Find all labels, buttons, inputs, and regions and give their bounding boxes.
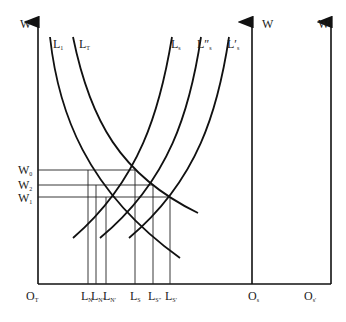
left-axis-label: W [20, 17, 32, 31]
right-axis-label: W [318, 17, 330, 31]
label-lt: LT [79, 37, 90, 51]
origin-left: OT [26, 289, 39, 303]
demand-curves [50, 37, 198, 258]
axes [38, 22, 331, 284]
supply-curve-ls1 [129, 37, 229, 238]
supply-curve-ls2 [100, 37, 201, 238]
label-l1: L1 [53, 37, 63, 51]
label-w2: W2 [18, 178, 32, 192]
axis-labels: W W W OT Os Os' [20, 17, 330, 303]
middle-axis-label: W [262, 17, 274, 31]
origin-middle: Os [248, 289, 260, 303]
label-ls2-q: LS″ [148, 289, 162, 303]
label-ls: Ls [171, 37, 181, 51]
label-ln1: LN′ [103, 289, 117, 303]
label-ls1-q: LS′ [165, 289, 178, 303]
label-ls2: L″s [197, 37, 212, 51]
labor-market-diagram: W W W OT Os Os' L1 LT Ls L″s L′s W0 W2 W… [0, 0, 346, 322]
label-w1: W1 [18, 191, 32, 205]
origin-right: Os' [304, 289, 316, 303]
label-ls-q: LS [130, 289, 141, 303]
quantity-guides [88, 170, 170, 284]
quantity-labels: LN LN″ LN′ LS LS″ LS′ [81, 289, 178, 303]
label-ls1: L′s [227, 37, 240, 51]
label-w0: W0 [18, 163, 32, 177]
wage-labels: W0 W2 W1 [18, 163, 32, 205]
curve-labels: L1 LT Ls L″s L′s [53, 37, 240, 51]
